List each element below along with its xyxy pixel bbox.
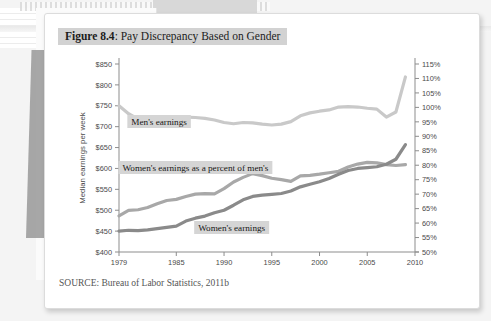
line-chart: $400$450$500$550$600$650$700$750$800$850…: [45, 14, 479, 308]
y-axis-right-tick-label: 100%: [422, 103, 441, 112]
y-axis-right-tick-label: 85%: [422, 146, 437, 155]
y-axis-right-tick-label: 60%: [422, 219, 437, 228]
y-axis-left-tick-label: $500: [96, 206, 112, 215]
y-axis-right-tick-label: 110%: [422, 74, 441, 83]
x-axis-tick-label: 2010: [407, 258, 423, 267]
y-axis-right-tick-label: 75%: [422, 175, 437, 184]
annotation-label-0: Men's earnings: [131, 117, 187, 127]
y-axis-left-tick-label: $450: [96, 227, 112, 236]
y-axis-right-tick-label: 65%: [422, 204, 437, 213]
annotation-label-2: Women's earnings: [198, 223, 265, 233]
y-axis-left-tick-label: $850: [96, 60, 112, 69]
x-axis-tick-label: 1995: [264, 258, 280, 267]
y-axis-right-tick-label: 115%: [422, 60, 441, 69]
y-axis-right-tick-label: 95%: [422, 118, 437, 127]
y-axis-right-tick-label: 55%: [422, 233, 437, 242]
y-axis-right-tick-label: 70%: [422, 190, 437, 199]
y-axis-left-tick-label: $700: [96, 122, 112, 131]
y-axis-right-tick-label: 80%: [422, 161, 437, 170]
y-axis-left-title: Median earnings per week: [78, 112, 87, 204]
x-axis-tick-label: 1979: [111, 258, 127, 267]
y-axis-left-tick-label: $750: [96, 101, 112, 110]
x-axis-tick-label: 1990: [216, 258, 232, 267]
x-axis-tick-label: 2005: [359, 258, 375, 267]
y-axis-right-tick-label: 105%: [422, 89, 441, 98]
y-axis-left-tick-label: $800: [96, 81, 112, 90]
y-axis-right-tick-label: 90%: [422, 132, 437, 141]
y-axis-left-tick-label: $400: [96, 248, 112, 257]
y-axis-left-tick-label: $600: [96, 164, 112, 173]
figure-card: Figure 8.4: Pay Discrepancy Based on Gen…: [44, 13, 480, 309]
y-axis-right-tick-label: 50%: [422, 248, 437, 257]
source-note: SOURCE: Bureau of Labor Statistics, 2011…: [59, 278, 229, 288]
y-axis-left-tick-label: $550: [96, 185, 112, 194]
series-line-2: [119, 145, 405, 231]
y-axis-left-tick-label: $650: [96, 143, 112, 152]
x-axis-tick-label: 2000: [311, 258, 327, 267]
x-axis-tick-label: 1985: [168, 258, 184, 267]
chart-plot-area: $400$450$500$550$600$650$700$750$800$850…: [45, 14, 479, 308]
annotation-label-1: Women's earnings as a percent of men's: [122, 163, 268, 173]
